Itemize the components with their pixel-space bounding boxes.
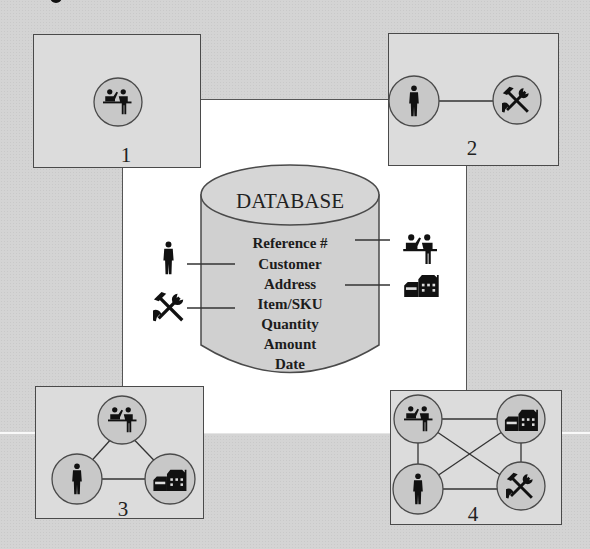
field-customer: Customer [258,256,322,272]
panel-number: 2 [467,138,478,159]
sales-counter-icon [403,234,437,264]
panel-number: 1 [121,145,132,166]
panel-4: 4 [390,390,562,525]
database-title: DATABASE [236,189,344,213]
person-icon [163,241,173,274]
panel-2: 2 [388,33,559,166]
panel-1: 1 [33,34,201,168]
panel-3: 3 [35,386,204,519]
field-item-sku: Item/SKU [258,296,323,312]
field-address: Address [264,276,316,292]
house-icon [404,275,439,297]
tools-icon [150,292,183,321]
field-reference: Reference # [252,235,328,251]
field-date: Date [275,356,305,372]
field-quantity: Quantity [261,316,319,332]
field-amount: Amount [264,336,317,352]
panel-number: 4 [468,504,479,525]
panel-number: 3 [118,499,129,520]
